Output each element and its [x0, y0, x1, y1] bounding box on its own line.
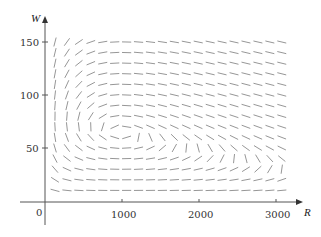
slope-segment	[54, 80, 55, 88]
slope-segment	[75, 179, 83, 180]
slope-segment	[54, 144, 56, 152]
slope-segment	[158, 84, 166, 86]
slope-segment	[254, 146, 261, 150]
slope-segment	[134, 147, 142, 149]
slope-segment	[170, 41, 178, 42]
slope-segment	[170, 73, 178, 75]
slope-segment	[67, 112, 68, 120]
slope-segment	[111, 125, 119, 128]
slope-segment	[66, 102, 68, 110]
slope-segment	[230, 125, 238, 128]
slope-segment	[171, 134, 177, 140]
slope-segment	[134, 105, 142, 106]
slope-segment	[54, 70, 56, 78]
slope-segment	[279, 156, 286, 161]
slope-segment	[170, 105, 178, 107]
slope-segment	[87, 62, 95, 65]
slope-segment	[122, 126, 130, 127]
slope-segment	[170, 180, 178, 181]
slope-segment	[134, 42, 142, 43]
slope-segment	[123, 136, 131, 138]
slope-segment	[146, 41, 154, 42]
slope-segment	[245, 155, 247, 163]
slope-segment	[158, 63, 166, 64]
slope-segment	[281, 165, 282, 173]
slope-segment	[170, 115, 178, 118]
slope-segment	[254, 83, 262, 85]
slope-segment	[266, 104, 274, 106]
slope-segment	[182, 73, 190, 75]
slope-segment	[206, 125, 214, 128]
slope-segment	[194, 179, 202, 180]
slope-segment	[149, 134, 152, 142]
slope-segment	[64, 145, 69, 152]
slope-segment	[254, 41, 262, 43]
slope-segment	[194, 62, 202, 64]
slope-segment	[158, 158, 166, 160]
slope-segment	[255, 166, 261, 172]
slope-segment	[170, 62, 178, 64]
slope-segment	[99, 41, 107, 42]
slope-segment	[75, 157, 83, 160]
slope-segment	[206, 94, 214, 96]
slope-segment	[111, 148, 119, 149]
slope-segment	[55, 123, 56, 131]
slope-segment	[87, 158, 95, 160]
slope-segment	[267, 156, 273, 162]
slope-segment	[158, 41, 166, 42]
slope-segment	[63, 167, 71, 170]
origin-label: 0	[36, 207, 42, 218]
y-axis-arrow-icon	[42, 16, 48, 23]
slope-segment	[158, 73, 166, 74]
slope-segment	[99, 94, 107, 96]
slope-segment	[66, 91, 69, 99]
slope-segment	[278, 104, 286, 106]
slope-segment	[183, 135, 190, 140]
x-tick-label-3000: 3000	[265, 209, 290, 220]
slope-segment	[182, 62, 190, 64]
slope-segment	[218, 41, 226, 43]
slope-segment	[278, 125, 286, 128]
slope-segment	[158, 52, 166, 53]
slope-segment	[266, 94, 274, 96]
slope-segment	[206, 62, 214, 64]
slope-segment	[76, 61, 83, 66]
slope-segment	[182, 41, 190, 43]
slope-segment	[138, 133, 140, 141]
slope-segment	[218, 62, 226, 64]
slope-segment	[87, 146, 95, 150]
slope-segment	[218, 104, 226, 106]
slope-segment	[170, 94, 178, 96]
field-segments	[51, 38, 286, 192]
slope-segment	[206, 115, 214, 118]
slope-segment	[230, 179, 238, 180]
slope-segment	[146, 73, 154, 74]
slope-segment	[160, 134, 165, 141]
slope-segment	[218, 179, 226, 180]
slope-segment	[171, 125, 179, 129]
slope-segment	[194, 104, 202, 106]
slope-segment	[77, 102, 81, 109]
slope-segment	[266, 52, 274, 54]
slope-segment	[65, 133, 68, 141]
slope-segment	[75, 168, 83, 170]
slope-segment	[102, 123, 105, 131]
slope-segment	[170, 169, 178, 170]
slope-segment	[266, 115, 274, 117]
slope-segment	[87, 169, 95, 170]
slope-segment	[207, 135, 214, 139]
slope-segment	[278, 136, 286, 139]
slope-segment	[197, 144, 199, 152]
slope-segment	[87, 93, 94, 98]
slope-segment	[242, 83, 250, 85]
slope-segment	[159, 125, 167, 129]
slope-segment	[278, 115, 286, 117]
slope-segment	[254, 94, 262, 96]
slope-segment	[266, 179, 274, 181]
slope-segment	[254, 52, 262, 54]
x-tick-label-2000: 2000	[188, 209, 213, 220]
slope-segment	[254, 73, 262, 75]
slope-segment	[182, 94, 190, 96]
slope-segment	[55, 101, 56, 109]
slope-segment	[206, 83, 214, 85]
